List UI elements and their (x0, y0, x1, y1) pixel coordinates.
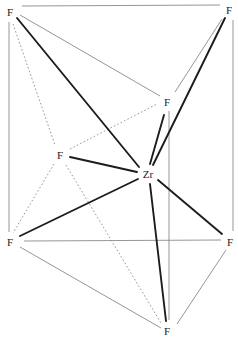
atom-label-f5: F (7, 236, 13, 248)
polyhedron-edge (175, 19, 222, 92)
bond-zr-f2 (153, 18, 225, 165)
polyhedron-edge (177, 250, 226, 324)
polyhedron-edges (9, 5, 233, 328)
diagram-canvas: FFFFZrFFF (0, 0, 238, 343)
atom-label-f6: F (227, 236, 233, 248)
zrf7-coordination-diagram: FFFFZrFFF (0, 0, 238, 343)
polyhedron-edge (20, 247, 161, 328)
atom-label-f4: F (57, 149, 63, 161)
hidden-edge (70, 104, 157, 149)
hidden-edge (13, 24, 55, 145)
hidden-edge (66, 165, 161, 323)
bond-zr-f4 (70, 157, 137, 172)
polyhedron-edge (24, 240, 221, 241)
atom-label-f2: F (226, 4, 232, 16)
hidden-polyhedron-edges (13, 24, 161, 323)
polyhedron-edge (20, 15, 160, 96)
bond-zr-f5 (20, 179, 138, 236)
atom-label-f7: F (164, 325, 170, 337)
bond-zr-f7 (150, 184, 166, 321)
polyhedron-edge (22, 5, 220, 6)
bond-zr-f6 (158, 180, 222, 234)
atom-label-f1: F (7, 6, 13, 18)
atom-label-f3: F (164, 96, 170, 108)
atom-label-zr: Zr (143, 168, 154, 180)
